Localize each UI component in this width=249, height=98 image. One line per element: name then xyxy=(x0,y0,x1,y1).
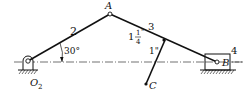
label-point-c: C xyxy=(149,80,157,91)
label-point-a: A xyxy=(104,0,112,11)
mechanism-diagram: 2 30° A 3 1 1 4 " 1" 4 B C O 2 xyxy=(0,0,249,98)
label-dim-den: 4 xyxy=(136,38,141,46)
label-link-4: 4 xyxy=(231,45,237,56)
label-dim-whole: 1 xyxy=(128,31,134,42)
label-dim-2: 1" xyxy=(149,46,159,56)
label-dim-unit: " xyxy=(141,28,144,36)
label-pivot-o2-sub: 2 xyxy=(38,83,42,91)
label-link-2: 2 xyxy=(70,25,77,38)
pivot-b-pin xyxy=(215,60,219,64)
slider-ground xyxy=(200,70,236,74)
angle-arrow xyxy=(60,57,64,62)
label-pivot-o2: O xyxy=(30,77,38,88)
label-link-3: 3 xyxy=(148,21,154,32)
pivot-a-pin xyxy=(108,12,112,16)
pivot-o2-pin xyxy=(26,59,30,63)
joint-3-c xyxy=(162,38,165,41)
label-dim-num: 1 xyxy=(136,29,140,37)
label-point-b: B xyxy=(221,57,229,68)
label-angle: 30° xyxy=(64,46,80,56)
point-c-dot xyxy=(144,82,147,85)
link-3 xyxy=(110,14,217,62)
